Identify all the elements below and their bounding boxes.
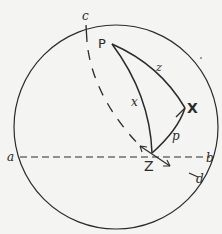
label-c: c [82, 9, 89, 23]
label-p: p [172, 129, 180, 143]
label-Z: Z [144, 158, 154, 174]
arc-z [112, 44, 185, 108]
arc-p [152, 108, 185, 153]
label-b: b [206, 151, 214, 165]
celestial-sphere-circle [14, 25, 218, 229]
label-X: X [187, 100, 198, 116]
label-x: x [131, 95, 138, 109]
stray-dot [200, 57, 202, 59]
arrowhead-right-icon [163, 160, 170, 166]
diagram-canvas: c P z x X p Z a b d [0, 0, 222, 234]
c-tick [86, 25, 87, 42]
label-d: d [196, 172, 204, 186]
label-P: P [98, 36, 106, 51]
label-z: z [155, 61, 162, 74]
label-a: a [7, 150, 14, 164]
